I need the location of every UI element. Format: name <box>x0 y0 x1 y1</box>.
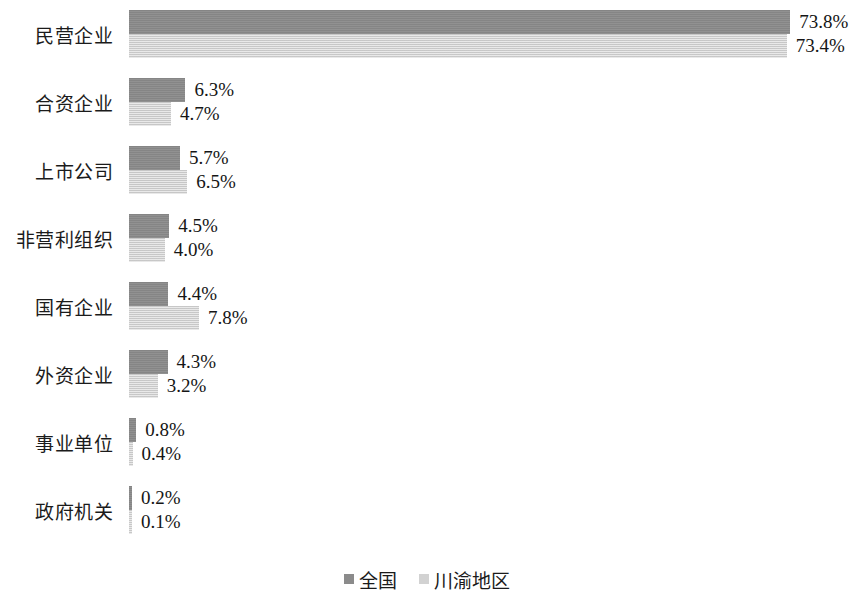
chart-plot-area: 民营企业73.8%73.4%合资企业6.3%4.7%上市公司5.7%6.5%非营… <box>0 0 854 560</box>
bar-row: 0.2% <box>129 486 181 510</box>
bar-region <box>129 374 158 398</box>
bar-pair: 4.4%7.8% <box>129 272 849 340</box>
bar-national <box>129 10 790 34</box>
bar-value-label: 4.3% <box>177 351 217 373</box>
chart-category-group: 事业单位0.8%0.4% <box>0 408 854 476</box>
bar-region <box>129 170 187 194</box>
chart-legend: 全国川渝地区 <box>0 560 854 598</box>
bar-row: 0.4% <box>129 442 181 466</box>
chart-category-group: 外资企业4.3%3.2% <box>0 340 854 408</box>
bar-region <box>129 510 132 534</box>
bar-value-label: 0.4% <box>142 443 182 465</box>
bar-value-label: 5.7% <box>189 147 229 169</box>
category-label: 非营利组织 <box>0 204 113 272</box>
legend-label: 全国 <box>359 566 397 593</box>
chart-category-group: 合资企业6.3%4.7% <box>0 68 854 136</box>
bar-national <box>129 418 136 442</box>
bar-row: 4.3% <box>129 350 216 374</box>
legend-item[interactable]: 全国 <box>344 566 397 593</box>
bar-pair: 0.8%0.4% <box>129 408 849 476</box>
bar-national <box>129 146 180 170</box>
bar-pair: 6.3%4.7% <box>129 68 849 136</box>
legend-swatch-icon <box>344 574 354 584</box>
bar-row: 0.1% <box>129 510 181 534</box>
bar-pair: 4.3%3.2% <box>129 340 849 408</box>
bar-value-label: 4.5% <box>178 215 218 237</box>
bar-row: 73.8% <box>129 10 848 34</box>
legend-label: 川渝地区 <box>434 566 510 593</box>
bar-pair: 73.8%73.4% <box>129 0 849 68</box>
bar-value-label: 6.5% <box>196 171 236 193</box>
bar-region <box>129 34 787 58</box>
bar-value-label: 4.0% <box>174 239 214 261</box>
bar-value-label: 0.8% <box>145 419 185 441</box>
chart-category-group: 非营利组织4.5%4.0% <box>0 204 854 272</box>
bar-row: 4.0% <box>129 238 213 262</box>
category-label: 上市公司 <box>0 136 113 204</box>
bar-value-label: 4.4% <box>177 283 217 305</box>
category-label: 民营企业 <box>0 0 113 68</box>
bar-region <box>129 238 165 262</box>
bar-value-label: 7.8% <box>208 307 248 329</box>
bar-value-label: 4.7% <box>180 103 220 125</box>
bar-national <box>129 282 168 306</box>
bar-value-label: 73.4% <box>796 35 845 57</box>
chart-category-group: 政府机关0.2%0.1% <box>0 476 854 544</box>
bar-pair: 5.7%6.5% <box>129 136 849 204</box>
bar-row: 73.4% <box>129 34 845 58</box>
bar-national <box>129 486 132 510</box>
bar-national <box>129 214 169 238</box>
bar-value-label: 6.3% <box>194 79 234 101</box>
bar-row: 0.8% <box>129 418 185 442</box>
category-label: 政府机关 <box>0 476 113 544</box>
bar-row: 3.2% <box>129 374 206 398</box>
legend-item[interactable]: 川渝地区 <box>419 566 510 593</box>
legend-swatch-icon <box>419 574 429 584</box>
category-label: 国有企业 <box>0 272 113 340</box>
bar-value-label: 0.2% <box>141 487 181 509</box>
bar-region <box>129 102 171 126</box>
bar-row: 5.7% <box>129 146 229 170</box>
bar-value-label: 73.8% <box>799 11 848 33</box>
chart-category-group: 上市公司5.7%6.5% <box>0 136 854 204</box>
bar-row: 6.3% <box>129 78 234 102</box>
category-label: 合资企业 <box>0 68 113 136</box>
bar-row: 4.7% <box>129 102 220 126</box>
chart-category-group: 民营企业73.8%73.4% <box>0 0 854 68</box>
bar-value-label: 3.2% <box>167 375 207 397</box>
bar-value-label: 0.1% <box>141 511 181 533</box>
category-label: 外资企业 <box>0 340 113 408</box>
bar-row: 7.8% <box>129 306 247 330</box>
bar-row: 4.4% <box>129 282 217 306</box>
category-label: 事业单位 <box>0 408 113 476</box>
chart-category-group: 国有企业4.4%7.8% <box>0 272 854 340</box>
bar-row: 6.5% <box>129 170 236 194</box>
bar-row: 4.5% <box>129 214 218 238</box>
bar-national <box>129 78 185 102</box>
bar-pair: 0.2%0.1% <box>129 476 849 544</box>
bar-pair: 4.5%4.0% <box>129 204 849 272</box>
bar-region <box>129 306 199 330</box>
bar-national <box>129 350 168 374</box>
bar-region <box>129 442 133 466</box>
bar-chart: 民营企业73.8%73.4%合资企业6.3%4.7%上市公司5.7%6.5%非营… <box>0 0 854 598</box>
